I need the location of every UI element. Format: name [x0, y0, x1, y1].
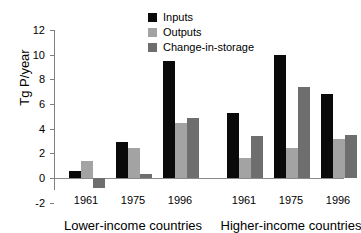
bar-outputs [128, 148, 140, 178]
x-group-label: Lower-income countries [64, 218, 202, 233]
y-tick: 0 [50, 178, 54, 179]
x-group-label: Higher-income countries [221, 218, 361, 233]
legend-label-inputs: Inputs [163, 12, 193, 23]
plot-area: 121086420-2 [54, 30, 344, 190]
y-tick-label: 6 [39, 98, 45, 110]
x-category-label: 1975 [121, 194, 145, 206]
bar-group [163, 30, 199, 190]
bar-group [274, 30, 310, 190]
bar-change-in-storage [93, 178, 105, 188]
bar-outputs [239, 158, 251, 178]
legend-item-inputs: Inputs [148, 11, 254, 24]
bar-inputs [163, 61, 175, 178]
y-axis-title: Tg P/year [17, 18, 32, 138]
bar-inputs [69, 171, 81, 178]
bar-outputs [333, 139, 345, 178]
bar-change-in-storage [345, 135, 357, 178]
bar-inputs [227, 113, 239, 178]
x-category-label: 1961 [74, 194, 98, 206]
y-tick-label: 10 [33, 49, 45, 61]
y-tick: -2 [50, 203, 54, 204]
y-tick: 10 [50, 55, 54, 56]
y-tick-label: 0 [39, 172, 45, 184]
y-tick-label: 2 [39, 147, 45, 159]
y-tick-label: -2 [35, 197, 45, 209]
x-category-label: 1996 [326, 194, 350, 206]
bar-group [69, 30, 105, 190]
y-tick-label: 8 [39, 73, 45, 85]
y-tick-label: 4 [39, 123, 45, 135]
legend-swatch-inputs [148, 13, 157, 22]
x-category-label: 1996 [168, 194, 192, 206]
y-tick: 12 [50, 30, 54, 31]
bar-outputs [286, 148, 298, 178]
bar-change-in-storage [187, 118, 199, 178]
bar-group [321, 30, 357, 190]
y-tick: 6 [50, 104, 54, 105]
y-tick: 8 [50, 79, 54, 80]
bar-groups [55, 30, 344, 190]
bar-inputs [274, 55, 286, 178]
x-category-label: 1975 [279, 194, 303, 206]
bar-change-in-storage [251, 136, 263, 178]
bar-group [116, 30, 152, 190]
y-tick: 2 [50, 153, 54, 154]
bar-inputs [116, 142, 128, 178]
bar-outputs [175, 123, 187, 179]
bar-outputs [81, 161, 93, 178]
bar-group [227, 30, 263, 190]
y-tick: 4 [50, 129, 54, 130]
bar-change-in-storage [140, 174, 152, 178]
bar-change-in-storage [298, 87, 310, 178]
bar-inputs [321, 94, 333, 178]
x-category-label: 1961 [232, 194, 256, 206]
y-tick-label: 12 [33, 24, 45, 36]
